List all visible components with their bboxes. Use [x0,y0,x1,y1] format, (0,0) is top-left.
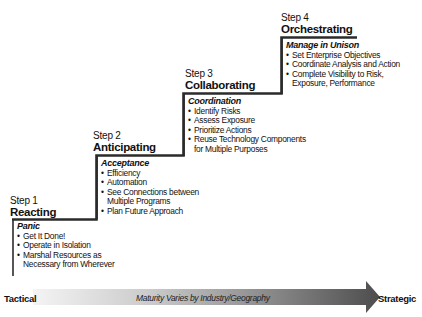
step-1-name: Reacting [10,207,56,219]
axis-left-label: Tactical [4,293,36,304]
step-1-title: Step 1 Reacting [10,196,56,219]
step-1-item: Marshal Resources asNecessary from Where… [17,251,115,270]
step-4-number: Step 4 [281,13,353,23]
step-3-item: Reuse Technology Componentsfor Multiple … [188,135,306,154]
maturity-axis: Tactical Maturity Varies by Industry/Geo… [0,280,422,317]
step-4-details: Manage in Unison Set Enterprise Objectiv… [286,41,400,89]
axis-middle-label: Maturity Varies by Industry/Geography [136,293,270,303]
step-3-number: Step 3 [185,69,255,79]
step-4-title: Step 4 Orchestrating [281,13,353,36]
step-2-item: See Connections betweenMultiple Programs [101,188,199,207]
step-3-details: Coordination Identify Risks Assess Expos… [188,97,306,155]
step-4-item: Complete Visibility to Risk,Exposure, Pe… [286,70,400,89]
step-2-details: Acceptance Efficiency Automation See Con… [101,159,199,217]
step-2-title: Step 2 Anticipating [93,131,156,154]
step-3-title: Step 3 Collaborating [185,69,255,92]
step-1-number: Step 1 [10,196,56,206]
axis-right-label: Strategic [378,293,416,304]
step-2-number: Step 2 [93,131,156,141]
step-2-name: Anticipating [93,142,156,154]
step-2-item: Plan Future Approach [101,207,199,217]
step-3-name: Collaborating [185,80,255,92]
step-4-name: Orchestrating [281,24,353,36]
step-1-details: Panic Get It Done! Operate in Isolation … [17,222,115,270]
